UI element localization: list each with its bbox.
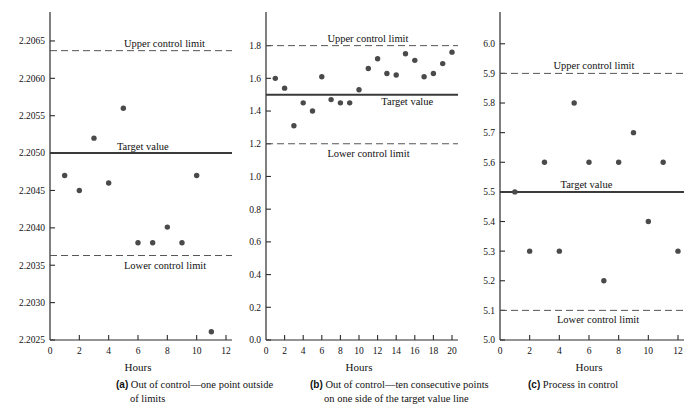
caption-a-label: (a) <box>116 379 128 390</box>
y-tick-label: 5.5 <box>483 187 495 197</box>
data-point <box>91 135 96 140</box>
data-point <box>542 160 547 165</box>
data-point <box>356 87 361 92</box>
x-tick-label: 14 <box>391 346 401 356</box>
data-point <box>375 56 380 61</box>
x-tick-label: 10 <box>644 346 654 356</box>
x-tick-label: 6 <box>319 346 324 356</box>
x-tick-label: 2 <box>282 346 287 356</box>
caption-c: (c) Process in control <box>528 378 683 392</box>
data-point <box>601 278 606 283</box>
data-point <box>586 160 591 165</box>
data-point <box>366 66 371 71</box>
caption-b-label: (b) <box>310 379 323 390</box>
y-tick-label: 1.2 <box>249 139 261 149</box>
y-tick-label: 2.2040 <box>19 223 45 233</box>
x-tick-label: 20 <box>447 346 457 356</box>
chart-panel-a: 2.20252.20302.20352.20402.20452.20502.20… <box>0 0 232 375</box>
data-point <box>179 240 184 245</box>
chart-a-canvas: 2.20252.20302.20352.20402.20452.20502.20… <box>0 0 232 375</box>
data-point <box>62 173 67 178</box>
y-tick-label: 5.7 <box>483 128 495 138</box>
x-tick-label: 8 <box>338 346 343 356</box>
lower-control-limit-label: Lower control limit <box>124 260 206 271</box>
x-tick-label: 8 <box>616 346 621 356</box>
data-point <box>557 248 562 253</box>
caption-a: (a) Out of control—one point outside of … <box>116 378 301 405</box>
figure-captions: (a) Out of control—one point outside of … <box>0 372 688 419</box>
chart-c-canvas: 5.05.15.25.35.45.55.65.75.85.96.00246810… <box>464 0 688 375</box>
data-point <box>449 49 454 54</box>
data-point <box>77 188 82 193</box>
y-tick-label: 2.2035 <box>19 261 45 271</box>
target-value-label: Target value <box>117 141 169 152</box>
data-point <box>403 51 408 56</box>
data-point <box>165 224 170 229</box>
y-tick-label: 5.8 <box>483 98 495 108</box>
y-tick-label: 5.6 <box>483 158 495 168</box>
data-point <box>328 97 333 102</box>
x-tick-label: 8 <box>165 346 170 356</box>
y-tick-label: 2.2050 <box>19 148 45 158</box>
data-point <box>135 240 140 245</box>
data-point <box>310 108 315 113</box>
data-point <box>675 248 680 253</box>
y-tick-label: 5.0 <box>483 335 495 345</box>
x-tick-label: 16 <box>410 346 420 356</box>
data-point <box>347 100 352 105</box>
y-tick-label: 2.2030 <box>19 298 45 308</box>
x-tick-label: 4 <box>301 346 306 356</box>
y-tick-label: 5.3 <box>483 247 495 257</box>
x-tick-label: 2 <box>77 346 82 356</box>
y-tick-label: 2.2065 <box>19 36 45 46</box>
y-tick-label: 0.2 <box>249 303 261 313</box>
upper-control-limit-label: Upper control limit <box>553 60 634 71</box>
x-tick-label: 6 <box>136 346 141 356</box>
y-tick-label: 5.2 <box>483 276 495 286</box>
upper-control-limit-label: Upper control limit <box>327 33 408 44</box>
data-point <box>512 189 517 194</box>
x-tick-label: 0 <box>498 346 503 356</box>
y-tick-label: 2.2025 <box>19 335 45 345</box>
target-value-label: Target value <box>561 179 613 190</box>
x-tick-label: 6 <box>587 346 592 356</box>
chart-panel-b: 0.00.20.40.60.81.01.21.41.61.80246810121… <box>232 0 464 375</box>
y-tick-label: 2.2055 <box>19 111 45 121</box>
y-tick-label: 2.2060 <box>19 74 45 84</box>
data-point <box>571 100 576 105</box>
data-point <box>646 219 651 224</box>
data-point <box>282 85 287 90</box>
y-tick-label: 1.0 <box>249 172 261 182</box>
x-tick-label: 4 <box>557 346 562 356</box>
caption-c-line1: Process in control <box>543 379 618 390</box>
caption-b-line1: Out of control—ten consecutive points <box>325 379 488 390</box>
data-point <box>616 160 621 165</box>
y-tick-label: 0.6 <box>249 237 261 247</box>
y-tick-label: 5.4 <box>483 217 495 227</box>
data-point <box>273 76 278 81</box>
x-tick-label: 10 <box>354 346 364 356</box>
caption-a-line2: of limits <box>116 392 301 406</box>
data-point <box>440 61 445 66</box>
data-point <box>421 74 426 79</box>
data-point <box>209 329 214 334</box>
data-point-group <box>62 106 214 335</box>
y-tick-label: 1.6 <box>249 74 261 84</box>
y-tick-label: 0.4 <box>249 270 261 280</box>
x-tick-label: 12 <box>673 346 683 356</box>
caption-a-line1: Out of control—one point outside <box>131 379 273 390</box>
y-tick-label: 5.1 <box>483 306 495 316</box>
data-point <box>319 74 324 79</box>
y-tick-label: 1.8 <box>249 41 261 51</box>
data-point <box>394 72 399 77</box>
data-point <box>291 123 296 128</box>
caption-b-line2: on one side of the target value line <box>310 392 515 406</box>
y-tick-label: 1.4 <box>249 106 261 116</box>
data-point <box>384 71 389 76</box>
data-point <box>121 106 126 111</box>
control-charts-figure: 2.20252.20302.20352.20402.20452.20502.20… <box>0 0 688 419</box>
chart-b-canvas: 0.00.20.40.60.81.01.21.41.61.80246810121… <box>232 0 464 375</box>
lower-control-limit-label: Lower control limit <box>327 148 409 159</box>
data-point <box>150 240 155 245</box>
x-tick-label: 2 <box>527 346 532 356</box>
